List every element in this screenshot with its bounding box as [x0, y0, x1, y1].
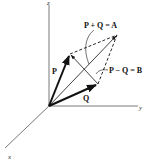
- vector-q-label: Q: [83, 94, 89, 103]
- x-axis: [5, 106, 49, 148]
- difference-annotation: P − Q = B: [109, 66, 143, 75]
- dashed-side-p-to-a: [70, 35, 117, 54]
- axes: z y x: [5, 0, 143, 161]
- vector-diagram: z y x P Q P + Q = A P − Q = B: [0, 0, 164, 164]
- y-axis-label: y: [138, 104, 143, 112]
- dashed-side-q-to-a: [98, 35, 117, 84]
- sum-leader-line: [86, 30, 94, 64]
- sum-annotation: P + Q = A: [84, 21, 117, 30]
- x-axis-label: x: [7, 153, 12, 161]
- z-axis-label: z: [46, 0, 50, 7]
- vector-p-label: P: [52, 67, 57, 76]
